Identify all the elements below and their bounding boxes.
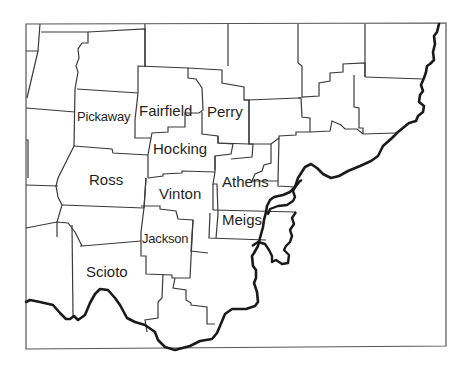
county-label-ross: Ross: [89, 172, 123, 187]
county-label-pickaway: Pickaway: [77, 110, 130, 123]
ohio-river-meigs-bend: [266, 180, 302, 214]
county-label-scioto: Scioto: [86, 264, 128, 279]
county-label-athens: Athens: [222, 174, 269, 189]
county-label-meigs: Meigs: [222, 212, 262, 227]
county-label-perry: Perry: [207, 104, 243, 119]
county-label-hocking: Hocking: [153, 141, 207, 156]
county-label-fairfield: Fairfield: [139, 103, 192, 118]
county-label-jackson: Jackson: [142, 232, 188, 245]
county-label-vinton: Vinton: [159, 186, 201, 201]
